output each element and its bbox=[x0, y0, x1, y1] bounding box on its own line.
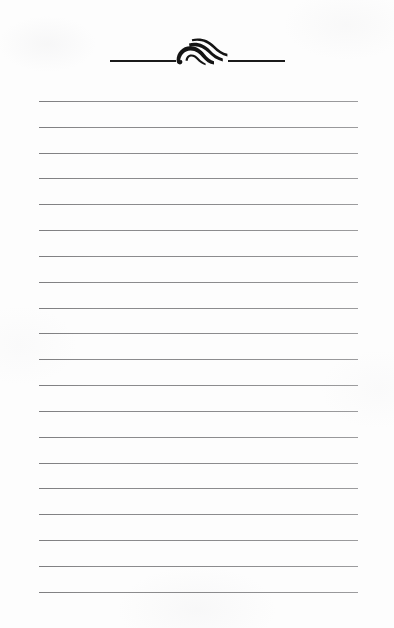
ruled-line bbox=[39, 385, 358, 386]
ruled-line bbox=[39, 333, 358, 334]
ruled-line bbox=[39, 256, 358, 257]
ruled-line bbox=[39, 127, 358, 128]
ruled-line bbox=[39, 101, 358, 102]
ruled-line bbox=[39, 308, 358, 309]
ruled-line bbox=[39, 566, 358, 567]
ruled-line bbox=[39, 514, 358, 515]
ruled-line bbox=[39, 359, 358, 360]
ruled-line bbox=[39, 411, 358, 412]
ruled-line bbox=[39, 437, 358, 438]
ruled-line bbox=[39, 178, 358, 179]
ruled-lines-group bbox=[0, 0, 394, 628]
ruled-line bbox=[39, 204, 358, 205]
ruled-line bbox=[39, 463, 358, 464]
ruled-line bbox=[39, 488, 358, 489]
ruled-line bbox=[39, 230, 358, 231]
ruled-line bbox=[39, 592, 358, 593]
notepaper-page bbox=[0, 0, 394, 628]
ruled-line bbox=[39, 282, 358, 283]
ruled-line bbox=[39, 540, 358, 541]
ruled-line bbox=[39, 153, 358, 154]
